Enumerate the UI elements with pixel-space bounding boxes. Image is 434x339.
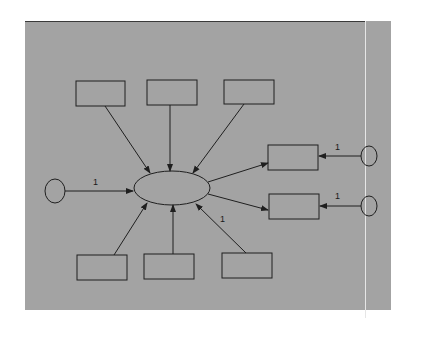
path-label-cause-bottom-3: 1 xyxy=(220,214,225,224)
path-label-disturbance: 1 xyxy=(93,177,98,187)
diagram-panel xyxy=(25,21,391,310)
sem-diagram: 1 1 1 1 xyxy=(0,0,434,339)
path-label-error-2: 1 xyxy=(335,191,340,201)
path-label-error-1: 1 xyxy=(335,142,340,152)
